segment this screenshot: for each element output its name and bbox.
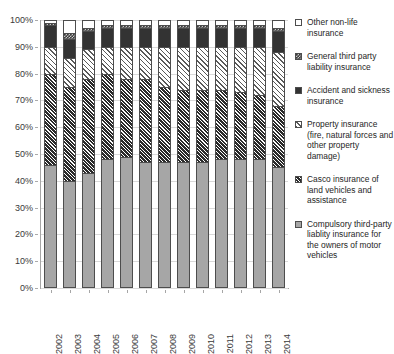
y-axis-tick-label: 60% bbox=[15, 123, 33, 132]
bar-segment bbox=[101, 47, 114, 74]
bar-segment bbox=[253, 95, 266, 159]
legend-key-swatch-icon bbox=[295, 19, 302, 26]
bar-segment bbox=[44, 74, 57, 165]
bar-segment bbox=[177, 28, 190, 47]
y-axis-tick-label: 100% bbox=[10, 16, 33, 25]
x-axis-tick-label: 2007 bbox=[150, 334, 159, 354]
bar-segment bbox=[120, 79, 133, 157]
legend-item-label: Compulsory third-party liablity insuranc… bbox=[307, 219, 394, 261]
bar-segment bbox=[234, 28, 247, 47]
x-axis-tick-mark bbox=[260, 290, 261, 293]
y-axis-tick-label: 30% bbox=[15, 204, 33, 213]
legend-item-label: General third party liability insurance bbox=[307, 51, 394, 72]
bar-segment bbox=[253, 47, 266, 95]
legend-item-label: Accident and sickness insurance bbox=[307, 85, 394, 106]
y-axis-tick-label: 0% bbox=[20, 284, 33, 293]
bar-segment bbox=[215, 28, 228, 47]
bar-segment bbox=[63, 39, 76, 58]
bar-2002[interactable] bbox=[44, 20, 57, 288]
y-axis-tick-mark bbox=[35, 74, 38, 75]
bar-segment bbox=[63, 20, 76, 33]
legend-item[interactable]: Compulsory third-party liablity insuranc… bbox=[295, 219, 394, 261]
y-axis-tick-label: 70% bbox=[15, 96, 33, 105]
x-axis-tick-mark bbox=[279, 290, 280, 293]
legend-item[interactable]: Accident and sickness insurance bbox=[295, 85, 394, 106]
y-axis-tick-label: 80% bbox=[15, 70, 33, 79]
legend-key-swatch-icon bbox=[295, 176, 302, 183]
legend-item[interactable]: Other non-life insurance bbox=[295, 17, 394, 38]
bar-2013[interactable] bbox=[253, 20, 266, 288]
bar-2007[interactable] bbox=[139, 20, 152, 288]
bar-segment bbox=[82, 31, 95, 50]
bar-segment bbox=[120, 157, 133, 288]
y-axis-tick-mark bbox=[35, 288, 38, 289]
bar-segment bbox=[120, 28, 133, 47]
bar-segment bbox=[177, 47, 190, 90]
y-axis-tick-label: 50% bbox=[15, 150, 33, 159]
y-axis-tick-mark bbox=[35, 100, 38, 101]
x-axis-tick-mark bbox=[184, 290, 185, 293]
gridline bbox=[41, 288, 288, 289]
bar-segment bbox=[215, 90, 228, 160]
bar-2014[interactable] bbox=[272, 20, 285, 288]
bar-segment bbox=[101, 74, 114, 160]
x-axis-tick-label: 2010 bbox=[207, 334, 216, 354]
x-axis-tick-mark bbox=[146, 290, 147, 293]
bar-segment bbox=[234, 47, 247, 93]
x-axis-tick-label: 2009 bbox=[188, 334, 197, 354]
bar-segment bbox=[139, 47, 152, 79]
y-axis-tick-label: 90% bbox=[15, 43, 33, 52]
legend-item[interactable]: Casco insurance of land vehicles and ass… bbox=[295, 174, 394, 206]
y-axis-tick-label: 40% bbox=[15, 177, 33, 186]
bar-segment bbox=[44, 25, 57, 46]
y-axis-tick-mark bbox=[35, 127, 38, 128]
y-axis-tick-mark bbox=[35, 261, 38, 262]
bar-segment bbox=[196, 28, 209, 47]
x-axis-tick-mark bbox=[165, 290, 166, 293]
bar-segment bbox=[120, 47, 133, 79]
y-axis: 0%10%20%30%40%50%60%70%80%90%100% bbox=[0, 0, 38, 308]
bar-segment bbox=[158, 28, 171, 47]
legend-key-swatch-icon bbox=[295, 87, 302, 94]
bar-segment bbox=[253, 28, 266, 47]
bar-segment bbox=[177, 90, 190, 162]
bar-segment bbox=[215, 159, 228, 288]
plot-area bbox=[41, 20, 288, 288]
bar-segment bbox=[63, 181, 76, 288]
bar-2008[interactable] bbox=[158, 20, 171, 288]
bar-2009[interactable] bbox=[177, 20, 190, 288]
bar-2004[interactable] bbox=[82, 20, 95, 288]
y-axis-tick-mark bbox=[35, 154, 38, 155]
bar-segment bbox=[215, 47, 228, 90]
bar-segment bbox=[196, 90, 209, 162]
legend-item-label: Casco insurance of land vehicles and ass… bbox=[307, 174, 394, 206]
bar-segment bbox=[253, 159, 266, 288]
x-axis-tick-mark bbox=[89, 290, 90, 293]
bar-segment bbox=[272, 106, 285, 168]
bar-2010[interactable] bbox=[196, 20, 209, 288]
x-axis-tick-label: 2011 bbox=[226, 334, 235, 353]
x-axis-tick-mark bbox=[51, 290, 52, 293]
bar-segment bbox=[139, 162, 152, 288]
bar-segment bbox=[234, 92, 247, 159]
bar-segment bbox=[44, 47, 57, 74]
legend-item[interactable]: Property insurance (fire, natural forces… bbox=[295, 119, 394, 161]
bar-2012[interactable] bbox=[234, 20, 247, 288]
legend-item[interactable]: General third party liability insurance bbox=[295, 51, 394, 72]
x-axis-tick-mark bbox=[70, 290, 71, 293]
x-axis-tick-label: 2013 bbox=[264, 334, 273, 354]
bar-2003[interactable] bbox=[63, 20, 76, 288]
bar-segment bbox=[63, 87, 76, 181]
bar-segment bbox=[82, 20, 95, 28]
y-axis-tick-mark bbox=[35, 20, 38, 21]
bar-segment bbox=[196, 162, 209, 288]
bar-2011[interactable] bbox=[215, 20, 228, 288]
bar-2005[interactable] bbox=[101, 20, 114, 288]
bar-2006[interactable] bbox=[120, 20, 133, 288]
bar-segment bbox=[196, 47, 209, 90]
y-axis-tick-mark bbox=[35, 208, 38, 209]
bar-segment bbox=[272, 20, 285, 28]
x-axis-tick-mark bbox=[222, 290, 223, 293]
x-axis-tick-label: 2006 bbox=[131, 334, 140, 354]
